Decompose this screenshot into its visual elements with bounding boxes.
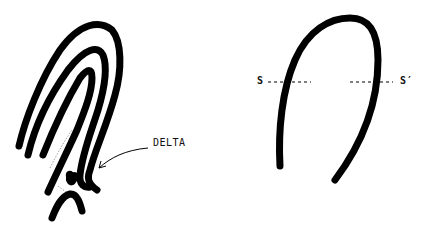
fingerprint-diagram: [0, 0, 424, 235]
ridge-lower: [52, 194, 82, 218]
right-loop-ridge: [280, 18, 378, 180]
section-label-s: S: [257, 75, 264, 86]
section-label-s-prime: S′: [400, 75, 413, 86]
ridge-outer: [19, 25, 120, 190]
delta-arrow: [99, 148, 148, 168]
left-loop-ridges: [19, 25, 120, 218]
delta-label: DELTA: [153, 137, 186, 148]
delta-core: [68, 173, 76, 184]
